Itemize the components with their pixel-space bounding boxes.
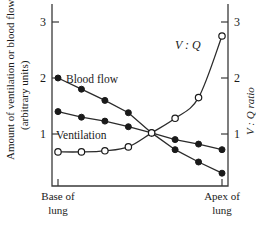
left-tick-label-1: 1 bbox=[40, 127, 46, 141]
ventilation-perfusion-chart: 3 2 1 3 2 1 Base of lung Apex of lung Am… bbox=[0, 0, 262, 225]
x-label-apex-line2: lung bbox=[212, 204, 232, 216]
data-point bbox=[125, 144, 131, 150]
y-axis-title: Amount of ventilation or blood flow bbox=[4, 0, 16, 160]
right-tick-label-1: 1 bbox=[234, 127, 240, 141]
data-point bbox=[219, 147, 225, 153]
data-point bbox=[172, 147, 178, 153]
data-point bbox=[196, 141, 202, 147]
right-tick-label-3: 3 bbox=[234, 15, 240, 29]
chart-figure: 3 2 1 3 2 1 Base of lung Apex of lung Am… bbox=[0, 0, 262, 225]
data-point bbox=[195, 94, 201, 100]
data-point bbox=[196, 159, 202, 165]
data-point bbox=[78, 149, 84, 155]
data-point bbox=[55, 75, 61, 81]
data-point bbox=[172, 137, 178, 143]
data-point bbox=[172, 115, 178, 121]
data-point bbox=[102, 118, 108, 124]
data-point bbox=[78, 114, 84, 120]
data-point bbox=[219, 170, 225, 176]
annotation-ventilation: Ventilation bbox=[56, 129, 107, 141]
data-point bbox=[55, 149, 61, 155]
data-point bbox=[125, 110, 131, 116]
x-label-base-line1: Base of bbox=[41, 190, 75, 202]
data-point bbox=[125, 124, 131, 130]
y-axis-title-line2: (arbitrary units) bbox=[18, 60, 31, 130]
y2-axis-title: V : Q ratio bbox=[244, 87, 256, 135]
left-tick-label-2: 2 bbox=[40, 71, 46, 85]
data-point bbox=[78, 86, 84, 92]
annotation-blood-flow: Blood flow bbox=[66, 73, 119, 85]
data-point bbox=[219, 33, 225, 39]
series-blood-flow bbox=[55, 75, 225, 176]
data-point bbox=[55, 109, 61, 115]
data-point bbox=[102, 97, 108, 103]
data-point bbox=[102, 148, 108, 154]
axis-frame bbox=[52, 4, 228, 186]
annotation-vq: V : Q bbox=[175, 38, 201, 52]
data-point bbox=[148, 130, 154, 136]
left-tick-label-3: 3 bbox=[40, 15, 46, 29]
x-label-base-line2: lung bbox=[48, 204, 68, 216]
x-label-apex-line1: Apex of bbox=[204, 190, 240, 202]
right-tick-label-2: 2 bbox=[234, 71, 240, 85]
